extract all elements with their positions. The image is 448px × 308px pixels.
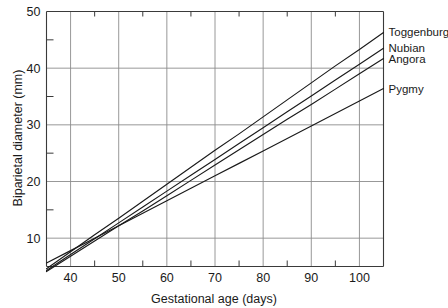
line-chart: 4050607080901001020304050 ToggenburgNubi… — [0, 0, 448, 308]
y-tick-label-10: 10 — [27, 232, 41, 246]
x-tick-label-40: 40 — [64, 271, 78, 285]
x-tick-label-70: 70 — [208, 271, 222, 285]
y-tick-label-40: 40 — [27, 62, 41, 76]
x-tick-label-100: 100 — [349, 271, 370, 285]
series-label-toggenburg: Toggenburg — [389, 26, 448, 38]
x-tick-label-90: 90 — [304, 271, 318, 285]
x-tick-label-50: 50 — [112, 271, 126, 285]
y-tick-label-20: 20 — [27, 175, 41, 189]
y-axis-title: Biparietal diameter (mm) — [11, 70, 25, 207]
series-label-pygmy: Pygmy — [389, 83, 424, 95]
series-label-angora: Angora — [389, 53, 427, 65]
y-tick-label-50: 50 — [27, 5, 41, 19]
chart-figure: 4050607080901001020304050 ToggenburgNubi… — [0, 0, 448, 308]
x-tick-label-80: 80 — [256, 271, 270, 285]
y-tick-label-30: 30 — [27, 118, 41, 132]
x-axis-title: Gestational age (days) — [151, 292, 277, 306]
x-tick-label-60: 60 — [160, 271, 174, 285]
